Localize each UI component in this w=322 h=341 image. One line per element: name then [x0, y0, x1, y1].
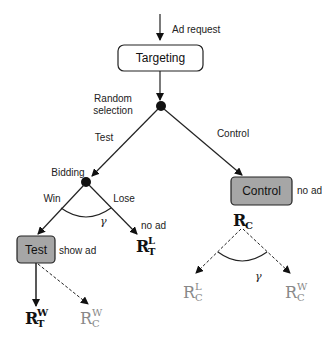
control-edge: [164, 109, 242, 175]
r-c-w-sub: C: [297, 292, 305, 303]
r-c-w-sup: W: [297, 281, 308, 292]
show-ad-label: show ad: [59, 245, 96, 256]
r-t-w-sup: W: [36, 307, 49, 318]
r-c-sub: C: [245, 220, 253, 231]
outcome-r-c-l: R L C: [183, 281, 203, 303]
r-c-w-test-sup: W: [92, 307, 103, 318]
outcome-r-c: R C: [233, 211, 253, 231]
test-to-rcw-dashed-arrow: [38, 264, 88, 304]
random-label-line1: Random: [94, 93, 132, 104]
gamma-label-bidding: γ: [100, 215, 107, 228]
r-t-l-sup: L: [148, 235, 155, 246]
outcome-r-c-w: R W C: [285, 281, 308, 303]
no-ad-lose-label: no ad: [141, 220, 166, 231]
gamma-arc-control: [218, 252, 267, 261]
ad-request-label: Ad request: [172, 24, 221, 35]
outcome-r-t-l: R L T: [136, 235, 156, 257]
test-box-label: Test: [25, 243, 48, 257]
gamma-label-control: γ: [255, 270, 262, 283]
lose-label: Lose: [113, 193, 135, 204]
r-c-w-test-sub: C: [92, 318, 100, 329]
control-edge-label: Control: [217, 128, 249, 139]
win-label: Win: [43, 193, 60, 204]
random-label-line2: selection: [93, 105, 132, 116]
outcome-r-t-w: R W T: [25, 307, 49, 329]
targeting-label: Targeting: [136, 51, 185, 65]
test-edge-label: Test: [95, 132, 114, 143]
outcome-r-c-w-test: R W C: [80, 307, 103, 329]
r-c-l-sub: C: [195, 292, 203, 303]
rc-to-rcw-dashed-arrow: [243, 229, 290, 273]
rc-to-rcl-dashed-arrow: [196, 229, 241, 273]
ad-experiment-diagram: Ad request Targeting Random selection Te…: [0, 0, 322, 341]
r-t-w-sub: T: [37, 318, 45, 329]
r-t-l-sub: T: [148, 246, 156, 257]
bidding-label: Bidding: [51, 167, 84, 178]
r-c-l-sup: L: [195, 281, 202, 292]
control-box-label: Control: [242, 184, 281, 198]
no-ad-control-label: no ad: [297, 185, 322, 196]
